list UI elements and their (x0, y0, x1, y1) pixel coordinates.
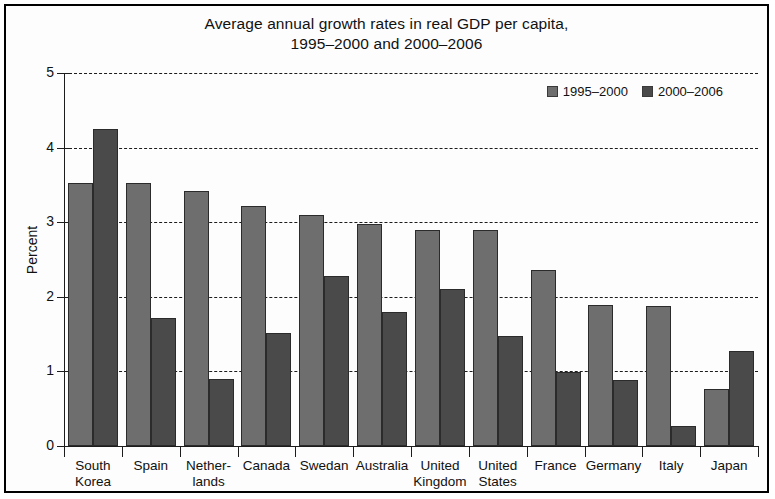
x-axis-label-line: Italy (642, 458, 700, 474)
x-axis-label-swedan: Swedan (295, 458, 353, 474)
x-axis-label-south-korea: SouthKorea (64, 458, 122, 489)
x-tick-7 (469, 446, 470, 457)
bar-south-korea-series1[interactable] (68, 183, 93, 446)
x-axis-label-line: Australia (353, 458, 411, 474)
x-axis-label-line: United (411, 458, 469, 474)
x-tick-11 (700, 446, 701, 457)
bar-france-series2[interactable] (556, 372, 581, 446)
y-tick-label-4: 4 (24, 139, 54, 155)
x-axis-label-netherlands: Nether-lands (180, 458, 238, 489)
bar-canada-series1[interactable] (241, 206, 266, 446)
x-axis-label-france: France (527, 458, 585, 474)
x-axis-label-canada: Canada (238, 458, 296, 474)
bar-japan-series1[interactable] (704, 389, 729, 446)
chart-frame: Average annual growth rates in real GDP … (4, 4, 769, 493)
x-tick-end (758, 446, 759, 457)
y-tick-label-3: 3 (24, 213, 54, 229)
y-tick-label-1: 1 (24, 362, 54, 378)
x-axis-label-line: Germany (585, 458, 643, 474)
bar-netherlands-series2[interactable] (209, 379, 234, 446)
x-axis-label-line: Japan (700, 458, 758, 474)
chart-title-line2: 1995–2000 and 2000–2006 (6, 34, 767, 54)
bar-united-states-series1[interactable] (473, 230, 498, 446)
bar-italy-series1[interactable] (646, 306, 671, 446)
x-tick-8 (527, 446, 528, 457)
bar-canada-series2[interactable] (266, 333, 291, 446)
x-tick-10 (642, 446, 643, 457)
x-axis-label-spain: Spain (122, 458, 180, 474)
bar-spain-series2[interactable] (151, 318, 176, 446)
x-axis-label-italy: Italy (642, 458, 700, 474)
x-axis-label-line: Canada (238, 458, 296, 474)
x-axis-label-united-kingdom: UnitedKingdom (411, 458, 469, 489)
bar-japan-series2[interactable] (729, 351, 754, 446)
bar-france-series1[interactable] (531, 270, 556, 446)
bar-germany-series1[interactable] (588, 305, 613, 446)
x-tick-2 (180, 446, 181, 457)
x-axis-label-line: Kingdom (411, 474, 469, 490)
bar-australia-series1[interactable] (357, 224, 382, 446)
bar-swedan-series2[interactable] (324, 276, 349, 446)
x-tick-6 (411, 446, 412, 457)
x-axis-label-line: France (527, 458, 585, 474)
x-tick-4 (295, 446, 296, 457)
y-tick-label-0: 0 (24, 437, 54, 453)
x-axis-label-line: Spain (122, 458, 180, 474)
bar-netherlands-series1[interactable] (184, 191, 209, 446)
y-tick-label-5: 5 (24, 64, 54, 80)
chart-title-line1: Average annual growth rates in real GDP … (205, 15, 569, 32)
plot-area (64, 73, 758, 446)
x-axis-label-line: United (469, 458, 527, 474)
x-axis-label-australia: Australia (353, 458, 411, 474)
bar-spain-series1[interactable] (126, 183, 151, 446)
bar-swedan-series1[interactable] (299, 215, 324, 446)
bar-germany-series2[interactable] (613, 380, 638, 446)
x-axis-label-line: Nether- (180, 458, 238, 474)
x-tick-9 (585, 446, 586, 457)
x-axis-label-line: States (469, 474, 527, 490)
x-axis-label-germany: Germany (585, 458, 643, 474)
bar-italy-series2[interactable] (671, 426, 696, 446)
y-tick-label-2: 2 (24, 288, 54, 304)
chart-title: Average annual growth rates in real GDP … (6, 14, 767, 54)
bar-united-kingdom-series1[interactable] (415, 230, 440, 446)
x-axis-label-japan: Japan (700, 458, 758, 474)
bar-australia-series2[interactable] (382, 312, 407, 446)
x-tick-5 (353, 446, 354, 457)
x-axis-label-line: lands (180, 474, 238, 490)
x-tick-1 (122, 446, 123, 457)
x-tick-0 (64, 446, 65, 457)
bar-south-korea-series2[interactable] (93, 129, 118, 446)
x-tick-3 (238, 446, 239, 457)
x-axis-label-line: Swedan (295, 458, 353, 474)
bar-united-states-series2[interactable] (498, 336, 523, 446)
x-axis-label-united-states: UnitedStates (469, 458, 527, 489)
x-axis-label-line: Korea (64, 474, 122, 490)
x-axis-label-line: South (64, 458, 122, 474)
bar-united-kingdom-series2[interactable] (440, 289, 465, 446)
